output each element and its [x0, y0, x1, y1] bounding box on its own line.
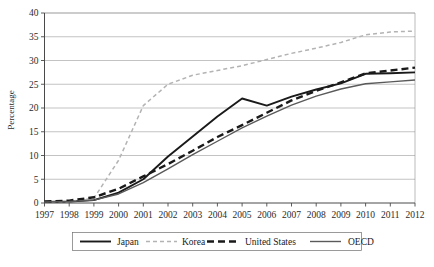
x-tick-label: 2010 [356, 210, 375, 220]
series-line-korea [45, 31, 416, 202]
series-line-oecd [45, 80, 416, 202]
series-line-japan [45, 72, 416, 202]
line-chart: 0510152025303540 19971998199920002001200… [0, 0, 434, 267]
x-tick-label: 2000 [109, 210, 128, 220]
x-tick-label: 1997 [35, 210, 54, 220]
legend-label-japan: Japan [117, 237, 139, 247]
data-series [45, 31, 416, 202]
legend-label-korea: Korea [182, 237, 206, 247]
x-tick-label: 2004 [208, 210, 227, 220]
legend-label-united-states: United States [245, 237, 296, 247]
x-tick-label: 2002 [159, 210, 178, 220]
x-tick-label: 2008 [307, 210, 326, 220]
y-tick-label: 5 [34, 175, 39, 185]
x-tick-label: 1998 [60, 210, 79, 220]
y-tick-label: 30 [29, 56, 39, 66]
x-tick-label: 2005 [233, 210, 252, 220]
y-axis: 0510152025303540 [29, 8, 45, 208]
y-tick-label: 20 [29, 103, 39, 113]
x-tick-label: 1999 [84, 210, 103, 220]
y-tick-label: 35 [29, 32, 39, 42]
x-tick-label: 2011 [381, 210, 400, 220]
x-tick-label: 2007 [282, 210, 301, 220]
chart-container: 0510152025303540 19971998199920002001200… [0, 0, 434, 267]
x-axis: 1997199819992000200120022003200420052006… [35, 203, 425, 220]
x-tick-label: 2009 [331, 210, 350, 220]
x-tick-label: 2001 [134, 210, 153, 220]
chart-legend: JapanKoreaUnited StatesOECD [73, 233, 375, 251]
y-axis-title-text: Percentage [6, 90, 16, 129]
y-tick-label: 15 [29, 127, 39, 137]
y-tick-label: 40 [29, 8, 39, 18]
y-tick-label: 10 [29, 151, 39, 161]
legend-label-oecd: OECD [348, 237, 374, 247]
y-tick-label: 25 [29, 80, 39, 90]
y-axis-title: Percentage [6, 90, 16, 129]
x-tick-label: 2006 [257, 210, 276, 220]
x-tick-label: 2003 [183, 210, 202, 220]
gridlines [45, 13, 416, 179]
y-tick-label: 0 [34, 198, 39, 208]
x-tick-label: 2012 [406, 210, 425, 220]
